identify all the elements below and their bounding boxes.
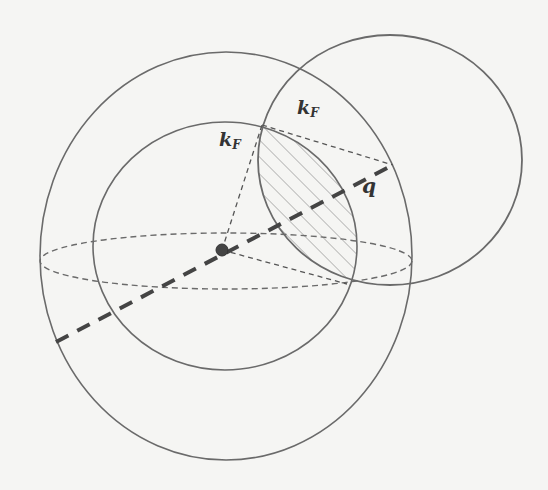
kf-label-inner: kF — [219, 130, 241, 151]
kf-label-shifted: kF — [297, 98, 319, 119]
diagram-svg — [0, 0, 548, 490]
origin-dot — [216, 244, 228, 256]
q-label: q — [362, 176, 376, 196]
diagram-canvas: kF kF q — [0, 0, 548, 490]
